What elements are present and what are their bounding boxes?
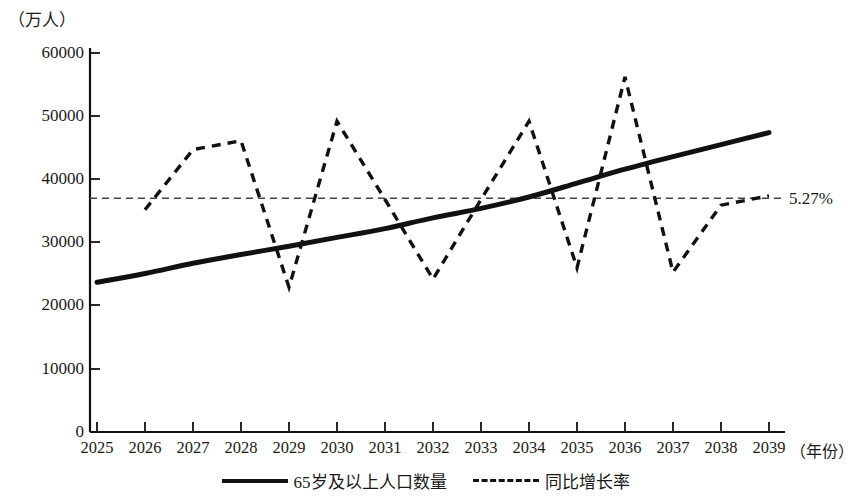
x-tick-label-2033: 2033 [465, 438, 498, 458]
legend-label-growth-rate: 同比增长率 [545, 468, 630, 493]
x-tick-label-2028: 2028 [225, 438, 258, 458]
x-tick-label-2026: 2026 [129, 438, 162, 458]
chart-container: （万人） 60000 50000 40000 30000 20000 10000… [0, 0, 851, 499]
x-tick-label-2025: 2025 [81, 438, 114, 458]
x-tick-label-2034: 2034 [513, 438, 546, 458]
dashed-line-swatch-icon [473, 479, 539, 482]
x-tick-label-2038: 2038 [705, 438, 738, 458]
chart-legend: 65岁及以上人口数量 同比增长率 [0, 468, 851, 493]
y-axis-ticks [90, 53, 100, 369]
x-tick-label-2031: 2031 [369, 438, 402, 458]
x-tick-label-2027: 2027 [177, 438, 210, 458]
x-tick-label-2036: 2036 [609, 438, 642, 458]
x-tick-label-2035: 2035 [561, 438, 594, 458]
legend-item-population: 65岁及以上人口数量 [222, 468, 447, 493]
legend-item-growth-rate: 同比增长率 [473, 468, 630, 493]
x-tick-label-2037: 2037 [657, 438, 690, 458]
x-tick-label-2032: 2032 [417, 438, 450, 458]
solid-line-swatch-icon [222, 479, 288, 483]
x-tick-label-2039: 2039 [753, 438, 786, 458]
chart-plot-area [0, 0, 851, 499]
legend-label-population: 65岁及以上人口数量 [294, 468, 447, 493]
reference-line-label: 5.27% [789, 189, 833, 209]
series-line-population [97, 133, 769, 283]
x-tick-label-2030: 2030 [321, 438, 354, 458]
x-axis-title: （年份） [790, 438, 851, 462]
x-tick-label-2029: 2029 [273, 438, 306, 458]
x-axis-ticks [97, 422, 769, 432]
